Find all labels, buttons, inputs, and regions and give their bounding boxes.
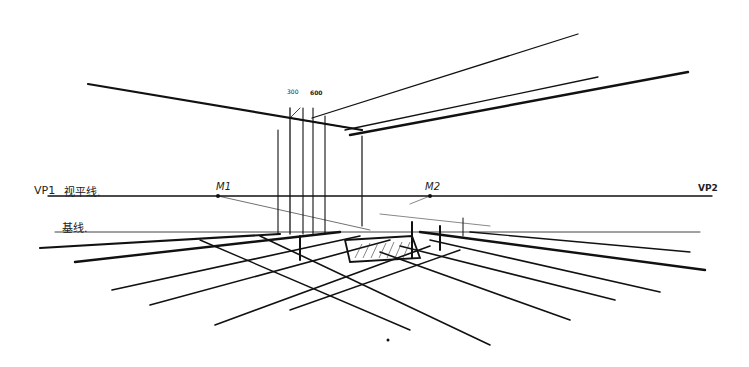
dimension-300: 300 (287, 88, 298, 95)
horizon-label: 视平线. (64, 183, 101, 199)
ground-line-label: 基线. (62, 219, 88, 235)
vp1-label: VP1 (34, 184, 55, 197)
sketch-lines (0, 0, 749, 367)
m2-label: M2 (425, 181, 440, 192)
perspective-sketch: VP1 视平线. M1 M2 VP2 基线. 300 600 (0, 0, 749, 367)
m1-label: M1 (216, 181, 231, 192)
dimension-600: 600 (310, 89, 323, 96)
vp2-label: VP2 (698, 183, 718, 193)
